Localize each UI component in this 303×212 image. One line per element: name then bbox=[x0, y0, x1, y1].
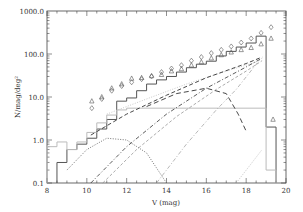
diamond-marker bbox=[229, 44, 233, 49]
model-curve bbox=[236, 150, 262, 183]
y-tick-label: 1000.0 bbox=[20, 8, 45, 16]
triangle-marker bbox=[239, 47, 243, 51]
triangle-marker bbox=[249, 45, 253, 49]
histogram-line bbox=[57, 36, 276, 183]
x-tick-label: 8 bbox=[45, 187, 49, 195]
histogram-line bbox=[47, 108, 276, 183]
triangle-marker bbox=[199, 60, 203, 64]
series-layer bbox=[47, 25, 276, 183]
triangle-marker bbox=[90, 99, 94, 103]
x-tick-labels: 8101214161820 bbox=[45, 187, 291, 195]
diamond-marker bbox=[90, 106, 94, 111]
y-axis-title: N/mag/deg² bbox=[14, 76, 22, 118]
x-tick-label: 20 bbox=[282, 187, 291, 195]
diamond-marker bbox=[239, 40, 243, 45]
diamond-marker bbox=[219, 47, 223, 52]
diamond-marker bbox=[199, 55, 203, 60]
x-tick-label: 16 bbox=[202, 187, 211, 195]
triangle-marker bbox=[139, 75, 143, 79]
triangle-marker bbox=[271, 117, 275, 121]
model-curve bbox=[67, 138, 167, 183]
diamond-marker bbox=[269, 25, 273, 30]
y-tick-labels: 0.11.010.0100.01000.0 bbox=[20, 8, 45, 188]
x-tick-label: 14 bbox=[162, 187, 171, 195]
triangle-marker bbox=[209, 56, 213, 60]
y-tick-label: 0.1 bbox=[33, 180, 44, 188]
triangle-marker bbox=[179, 66, 183, 70]
x-axis-title: V (mag) bbox=[151, 199, 180, 207]
x-tick-label: 12 bbox=[122, 187, 131, 195]
diamond-marker bbox=[209, 51, 213, 56]
diamond-marker bbox=[249, 36, 253, 41]
x-tick-label: 18 bbox=[242, 187, 251, 195]
x-tick-label: 10 bbox=[82, 187, 91, 195]
y-tick-label: 1.0 bbox=[33, 137, 44, 145]
model-curve bbox=[103, 61, 262, 183]
triangle-marker bbox=[189, 63, 193, 67]
triangle-marker bbox=[269, 36, 273, 40]
model-curve bbox=[157, 59, 261, 183]
model-curve bbox=[91, 57, 262, 135]
chart-canvas: 0.11.010.0100.01000.0 8101214161820 V (m… bbox=[0, 0, 303, 212]
diamond-marker bbox=[259, 30, 263, 35]
y-tick-label: 100.0 bbox=[24, 51, 44, 59]
triangle-marker bbox=[259, 42, 263, 46]
y-tick-label: 10.0 bbox=[28, 94, 44, 102]
